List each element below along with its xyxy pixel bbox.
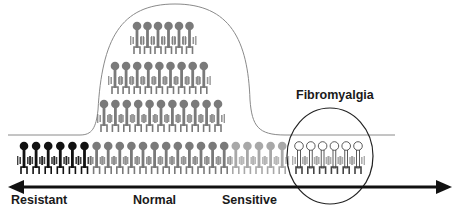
diagram: Resistant Normal Sensitive Fibromyalgia bbox=[0, 0, 455, 212]
figure-resistant bbox=[17, 142, 31, 174]
figure-resistant bbox=[53, 142, 67, 174]
figure-resistant bbox=[78, 142, 92, 174]
figure-resistant bbox=[29, 142, 43, 174]
sensitivity-axis-arrow bbox=[8, 180, 452, 194]
figure-resistant bbox=[41, 142, 55, 174]
label-normal: Normal bbox=[133, 193, 176, 207]
distribution-diagram bbox=[0, 0, 455, 212]
label-fibromyalgia: Fibromyalgia bbox=[296, 88, 374, 102]
label-sensitive: Sensitive bbox=[222, 193, 277, 207]
label-resistant: Resistant bbox=[11, 193, 67, 207]
figure-resistant bbox=[65, 142, 79, 174]
